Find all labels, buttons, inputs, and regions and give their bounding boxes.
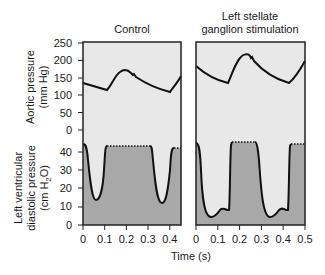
x-axis-label: Time (s) <box>171 250 211 262</box>
panel-title-stim-line2: ganglion stimulation <box>201 23 298 35</box>
aortic-y-ticks: 250 200 150 100 50 0 <box>54 37 83 136</box>
svg-text:0.4: 0.4 <box>276 233 291 245</box>
svg-text:30: 30 <box>60 164 72 176</box>
svg-text:200: 200 <box>54 54 72 66</box>
lv-ylabel: Left ventricular diastolic pressure (cm … <box>12 145 53 231</box>
lv-y-ticks: 40 30 20 10 0 <box>60 146 83 231</box>
svg-text:0.2: 0.2 <box>119 233 134 245</box>
svg-text:(cm H2O): (cm H2O) <box>38 165 53 211</box>
aortic-ylabel: Aortic pressure (mm Hg) <box>24 50 49 124</box>
svg-text:250: 250 <box>54 37 72 49</box>
panel-stimulation: 0 0.1 0.2 0.3 0.4 0.5 <box>193 42 313 245</box>
chart-svg: Control Left stellate ganglion stimulati… <box>0 0 325 275</box>
figure: Control Left stellate ganglion stimulati… <box>0 0 325 275</box>
svg-text:Left ventricular: Left ventricular <box>12 152 24 224</box>
svg-text:0.1: 0.1 <box>210 233 225 245</box>
svg-text:0.5: 0.5 <box>297 233 312 245</box>
svg-text:10: 10 <box>60 200 72 212</box>
svg-text:0.2: 0.2 <box>232 233 247 245</box>
svg-text:0: 0 <box>66 219 72 231</box>
svg-text:0.3: 0.3 <box>254 233 269 245</box>
svg-text:0.3: 0.3 <box>140 233 155 245</box>
svg-text:0.1: 0.1 <box>97 233 112 245</box>
svg-text:0: 0 <box>80 233 86 245</box>
svg-text:0.4: 0.4 <box>162 233 177 245</box>
x-ticks-control: 0 0.1 0.2 0.3 0.4 <box>80 233 178 245</box>
svg-text:150: 150 <box>54 72 72 84</box>
svg-text:50: 50 <box>60 107 72 119</box>
svg-text:40: 40 <box>60 146 72 158</box>
svg-text:0: 0 <box>66 124 72 136</box>
svg-text:(mm Hg): (mm Hg) <box>37 66 49 109</box>
panel-control: 0 0.1 0.2 0.3 0.4 <box>80 42 181 245</box>
x-ticks-stim: 0 0.1 0.2 0.3 0.4 0.5 <box>193 233 313 245</box>
svg-text:0: 0 <box>193 233 199 245</box>
svg-text:diastolic pressure: diastolic pressure <box>25 145 37 231</box>
svg-text:100: 100 <box>54 89 72 101</box>
panel-title-control: Control <box>114 23 149 35</box>
svg-text:20: 20 <box>60 182 72 194</box>
svg-text:Aortic pressure: Aortic pressure <box>24 50 36 124</box>
panel-title-stim-line1: Left stellate <box>222 10 278 22</box>
